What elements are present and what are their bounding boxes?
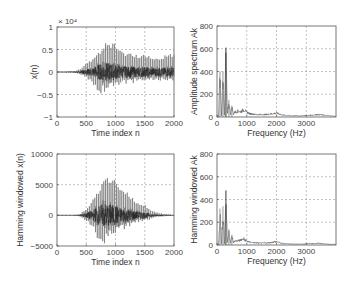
y-tick-label: 0 — [49, 68, 54, 77]
y-tick-label: 600 — [200, 45, 214, 54]
x-tick-label: 2000 — [165, 119, 183, 128]
plot-amplitude-spectrum: 01000200030000200400600800Frequency (Hz)… — [189, 22, 336, 138]
y-axis-label: Hamming windowed x(n) — [15, 153, 25, 247]
y-tick-label: 5000 — [35, 181, 53, 190]
x-tick-label: 0 — [215, 247, 220, 256]
x-tick-label: 3000 — [297, 247, 315, 256]
y-axis-label: Hamming windowed Ak — [189, 155, 199, 244]
y-tick-label: 600 — [200, 173, 214, 182]
x-axis-label: Frequency (Hz) — [247, 128, 306, 138]
y-tick-label: 800 — [200, 22, 214, 31]
plot-windowed-amplitude-spectrum: 01000200030000200400600800Frequency (Hz)… — [189, 150, 336, 266]
x-tick-label: 1500 — [136, 119, 154, 128]
figure: 0500100015002000−1−0.500.51Time index nx… — [0, 0, 354, 283]
x-tick-label: 500 — [80, 248, 94, 257]
y-tick-label: 400 — [200, 196, 214, 205]
y-tick-label: 400 — [200, 68, 214, 77]
x-tick-label: 0 — [215, 119, 220, 128]
x-axis-label: Time index n — [91, 257, 140, 267]
x-tick-label: 1000 — [107, 248, 125, 257]
x-tick-label: 1000 — [238, 247, 256, 256]
y-tick-label: −5000 — [31, 242, 54, 251]
x-tick-label: 3000 — [297, 119, 315, 128]
x-tick-label: 0 — [55, 248, 60, 257]
y-tick-label: −1 — [44, 113, 54, 122]
y-tick-label: −0.5 — [37, 91, 53, 100]
x-tick-label: 500 — [80, 119, 94, 128]
y-tick-label: 200 — [200, 218, 214, 227]
y-tick-label: 0 — [209, 241, 214, 250]
y-tick-label: 1 — [49, 23, 54, 32]
plot-time-signal: 0500100015002000−1−0.500.51Time index nx… — [29, 17, 183, 138]
y-axis-label: Amplitude spectrum Ak — [189, 27, 199, 115]
y-multiplier-label: × 10⁴ — [58, 17, 78, 26]
x-tick-label: 2000 — [268, 119, 286, 128]
x-tick-label: 2000 — [268, 247, 286, 256]
x-tick-label: 1000 — [238, 119, 256, 128]
y-tick-label: 800 — [200, 150, 214, 159]
x-tick-label: 2000 — [165, 248, 183, 257]
y-tick-label: 200 — [200, 90, 214, 99]
x-tick-label: 1500 — [136, 248, 154, 257]
y-tick-label: 0 — [49, 211, 54, 220]
y-tick-label: 10000 — [31, 150, 54, 159]
x-axis-label: Frequency (Hz) — [247, 256, 306, 266]
x-tick-label: 0 — [55, 119, 60, 128]
plot-windowed-time-signal: 0500100015002000−50000500010000Time inde… — [15, 150, 183, 267]
y-axis-label: x(n) — [29, 65, 39, 80]
x-tick-label: 1000 — [107, 119, 125, 128]
y-tick-label: 0 — [209, 113, 214, 122]
y-tick-label: 0.5 — [42, 46, 54, 55]
x-axis-label: Time index n — [91, 128, 140, 138]
